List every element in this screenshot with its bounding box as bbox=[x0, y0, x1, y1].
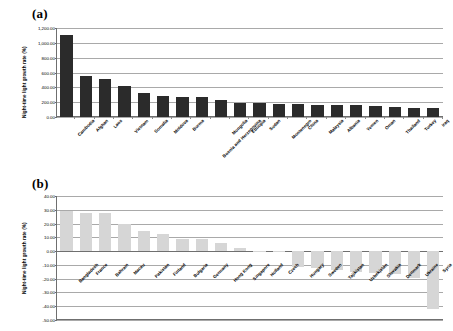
bar-slot bbox=[289, 28, 308, 116]
bar-slot bbox=[269, 28, 288, 116]
bar bbox=[99, 79, 111, 117]
bar bbox=[176, 239, 188, 251]
x-tickmark bbox=[172, 117, 191, 119]
x-tickmark bbox=[211, 117, 230, 119]
bar-slot bbox=[250, 28, 269, 116]
bar-slot bbox=[308, 28, 327, 116]
bar-slot bbox=[424, 196, 443, 319]
bar bbox=[408, 108, 420, 117]
bar-slot bbox=[385, 196, 404, 319]
bar-slot bbox=[404, 28, 423, 116]
bar-slot bbox=[211, 28, 230, 116]
bar bbox=[157, 96, 169, 117]
bar-slot bbox=[115, 196, 134, 319]
category-label: Malaysia bbox=[328, 118, 345, 135]
bar bbox=[215, 243, 227, 252]
x-tickmark bbox=[153, 117, 172, 119]
category-label: Somalia bbox=[153, 118, 169, 134]
bar-slot bbox=[57, 196, 76, 319]
category-label: Cambodia bbox=[77, 118, 96, 137]
bar-slot bbox=[404, 196, 423, 319]
bar bbox=[196, 239, 208, 251]
bar bbox=[253, 251, 265, 252]
bar bbox=[427, 108, 439, 117]
bar-slot bbox=[424, 28, 443, 116]
panel-b-tag: (b) bbox=[32, 176, 49, 192]
bar bbox=[311, 105, 323, 117]
y-tick-label: -10.00 bbox=[43, 262, 55, 267]
bar-slot bbox=[231, 196, 250, 319]
category-label: Burma bbox=[191, 118, 205, 132]
bar bbox=[369, 106, 381, 117]
bar bbox=[273, 251, 285, 252]
category-label: Yemen bbox=[365, 118, 379, 132]
bar bbox=[138, 231, 150, 251]
y-tick-label: -20.00 bbox=[43, 276, 55, 281]
category-label: Sudan bbox=[268, 118, 281, 131]
bar-slot bbox=[76, 28, 95, 116]
bar-slot bbox=[385, 28, 404, 116]
y-tick-label: 1,200.00 bbox=[38, 26, 55, 31]
bar-slot bbox=[192, 196, 211, 319]
category-label: Vietnam bbox=[134, 118, 150, 134]
x-tickmark bbox=[404, 117, 423, 119]
panel-b-axis-title: Night-time light growth rate (%) bbox=[22, 222, 27, 294]
category-label: Oman bbox=[384, 118, 397, 131]
bar-slot bbox=[327, 28, 346, 116]
bar-slot bbox=[134, 28, 153, 116]
bar bbox=[80, 213, 92, 251]
bar-slot bbox=[211, 196, 230, 319]
bar-slot bbox=[153, 28, 172, 116]
y-tick-label: 600.00 bbox=[42, 70, 55, 75]
bar bbox=[80, 76, 92, 117]
panel-a-plot-area: 1,200.001,000.00800.00600.00400.00200.00… bbox=[56, 28, 443, 117]
y-tick-label: -40.00 bbox=[43, 304, 55, 309]
bar-slot bbox=[250, 196, 269, 319]
bar-slot bbox=[57, 28, 76, 116]
panel-b-plot-area: 40.0030.0020.0010.000.00-10.00-20.00-30.… bbox=[56, 196, 443, 320]
category-label: Albania bbox=[346, 118, 361, 133]
y-tickmark bbox=[55, 320, 57, 321]
bar bbox=[292, 104, 304, 117]
bar bbox=[118, 86, 130, 117]
bar-slot bbox=[115, 28, 134, 116]
bar bbox=[157, 234, 169, 251]
bar-slot bbox=[366, 196, 385, 319]
bar-slot bbox=[308, 196, 327, 319]
y-tick-label: 0.00 bbox=[46, 249, 55, 254]
bar bbox=[138, 93, 150, 117]
panel-a-tag: (a) bbox=[32, 6, 48, 22]
y-tick-label: 400.00 bbox=[42, 85, 55, 90]
y-tick-label: 1,000.00 bbox=[38, 40, 55, 45]
x-tickmark bbox=[288, 117, 307, 119]
bar-slot bbox=[153, 196, 172, 319]
bar bbox=[60, 35, 72, 117]
panel-a-axis-title: Night-time light growth rate (%) bbox=[22, 46, 27, 118]
bar-slot bbox=[192, 28, 211, 116]
category-label: Moldova bbox=[173, 118, 189, 134]
bar bbox=[176, 97, 188, 117]
bar bbox=[196, 97, 208, 117]
bar-slot bbox=[346, 196, 365, 319]
bar bbox=[253, 103, 265, 117]
panel-b-bars bbox=[57, 196, 443, 319]
bar bbox=[118, 224, 130, 252]
bar bbox=[427, 251, 439, 309]
bar-slot bbox=[96, 28, 115, 116]
bar-slot bbox=[134, 196, 153, 319]
bar-slot bbox=[346, 28, 365, 116]
category-label: Iraq bbox=[441, 118, 450, 127]
x-tickmark bbox=[56, 117, 75, 119]
category-label: Laos bbox=[112, 118, 123, 129]
bar-slot bbox=[96, 196, 115, 319]
bar-slot bbox=[173, 28, 192, 116]
category-label: Syria bbox=[442, 262, 453, 273]
bar bbox=[273, 104, 285, 117]
bar-slot bbox=[231, 28, 250, 116]
category-label: Thailand bbox=[405, 118, 422, 135]
bar-slot bbox=[173, 196, 192, 319]
bar bbox=[234, 248, 246, 251]
bar bbox=[389, 107, 401, 117]
y-tick-label: 40.00 bbox=[44, 194, 55, 199]
